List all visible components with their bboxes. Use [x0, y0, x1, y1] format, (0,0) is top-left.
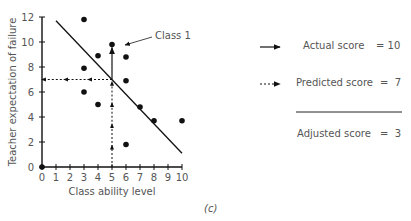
y-tick-label: 4: [28, 112, 34, 123]
panel-label: (c): [204, 203, 217, 214]
x-tick-label: 3: [81, 172, 87, 183]
data-point: [123, 78, 129, 84]
y-tick-label: 0: [28, 162, 34, 173]
x-tick-label: 4: [95, 172, 101, 183]
data-point: [39, 164, 45, 170]
x-tick-label: 2: [67, 172, 73, 183]
x-tick-label: 6: [123, 172, 129, 183]
data-point: [137, 104, 143, 110]
y-tick-label: 2: [28, 137, 34, 148]
data-point: [151, 118, 157, 124]
x-tick-label: 8: [151, 172, 157, 183]
x-tick-label: 5: [109, 172, 115, 183]
x-tick-label: 0: [39, 172, 45, 183]
legend-adjusted-value: = 3: [380, 128, 401, 139]
y-tick-label: 10: [21, 37, 34, 48]
data-point: [179, 118, 185, 124]
class1-label: Class 1: [155, 30, 191, 41]
y-tick-label: 8: [28, 62, 34, 73]
y-tick-label: 6: [28, 87, 34, 98]
data-point: [81, 89, 87, 95]
legend-adjusted-label: Adjusted score: [297, 128, 371, 139]
scatter-chart: 012345678910024681012 Class 1 Class abil…: [0, 0, 411, 221]
data-point: [95, 102, 101, 108]
x-tick-label: 7: [137, 172, 143, 183]
y-tick-label: 12: [21, 12, 34, 23]
legend-predicted-value: = 7: [380, 77, 401, 88]
legend-actual-label: Actual score: [303, 40, 364, 51]
legend-predicted-label: Predicted score: [296, 77, 373, 88]
x-axis-title: Class ability level: [68, 186, 155, 197]
class1-annotation: Class 1: [125, 30, 191, 45]
data-point: [109, 42, 115, 48]
data-point: [95, 53, 101, 59]
prediction-arrows: [43, 48, 112, 168]
data-point: [81, 17, 87, 23]
legend-actual-value: = 10: [376, 40, 400, 51]
x-tick-label: 1: [53, 172, 59, 183]
data-point: [81, 65, 87, 71]
x-tick-label: 9: [165, 172, 171, 183]
x-tick-label: 10: [176, 172, 189, 183]
y-axis-title: Teacher expectation of failure: [7, 18, 18, 168]
data-point: [123, 142, 129, 148]
data-point: [123, 54, 129, 60]
